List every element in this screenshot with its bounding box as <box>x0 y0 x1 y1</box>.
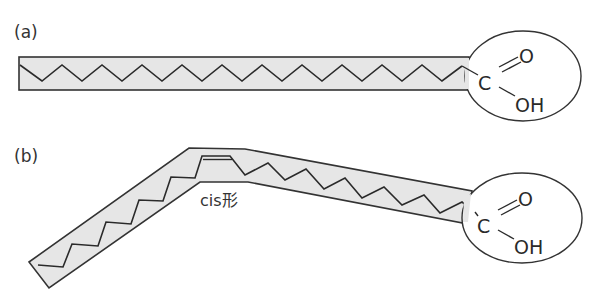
panel-a-carbon: C <box>478 72 491 94</box>
panel-b-carbon: C <box>477 215 490 237</box>
panel-a-tail-band <box>19 57 469 90</box>
panel-a-hydroxyl: OH <box>515 94 544 116</box>
cis-annotation: cis形 <box>200 191 238 210</box>
panel-b-tail-band <box>29 148 472 288</box>
fatty-acid-diagram: (a) C O OH (b) cis形 <box>0 0 606 306</box>
panel-b-hydroxyl: OH <box>514 236 543 258</box>
panel-a-band-join <box>465 58 469 89</box>
panel-a-oxygen: O <box>519 45 534 67</box>
panel-a-label: (a) <box>14 22 38 42</box>
panel-b-oxygen: O <box>518 188 533 210</box>
panel-a: (a) C O OH <box>14 22 581 121</box>
panel-b: (b) cis形 C O OH <box>14 146 582 288</box>
panel-b-label: (b) <box>14 146 38 166</box>
